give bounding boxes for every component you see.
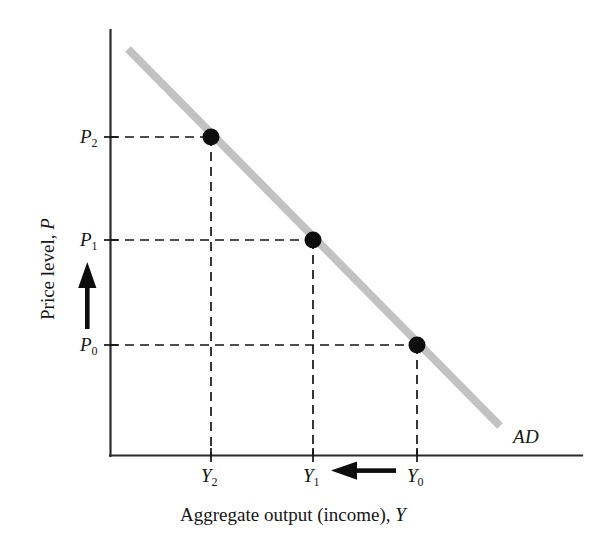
left-arrow-icon [331,462,396,480]
x-axis-title-text: Aggregate output (income), [180,504,395,525]
curve-label-ad: AD [513,427,539,446]
y-axis-title: Price level, P [38,218,57,320]
x-tick-label-y0: Y0 [407,466,424,485]
y-axis-title-symbol: P [37,218,58,230]
x-axis-title-symbol: Y [395,504,406,525]
x-tick-label-y2: Y2 [201,466,218,485]
y-tick-label-p2: P2 [80,127,98,146]
data-point-y2-p2 [203,129,220,146]
data-point-y1-p1 [305,232,322,249]
data-point-y0-p0 [409,337,426,354]
aggregate-demand-figure: P2 P1 P0 Y2 Y1 Y0 AD Price level, P Aggr… [0,0,612,540]
chart-canvas [0,0,612,540]
x-tick-label-y1: Y1 [303,466,320,485]
y-tick-label-p0: P0 [80,335,98,354]
y-axis-title-text: Price level, [37,230,58,320]
y-tick-label-p1: P1 [80,230,98,249]
up-arrow-icon [78,262,96,329]
x-axis-title: Aggregate output (income), Y [180,505,406,524]
axis-group [110,30,582,456]
